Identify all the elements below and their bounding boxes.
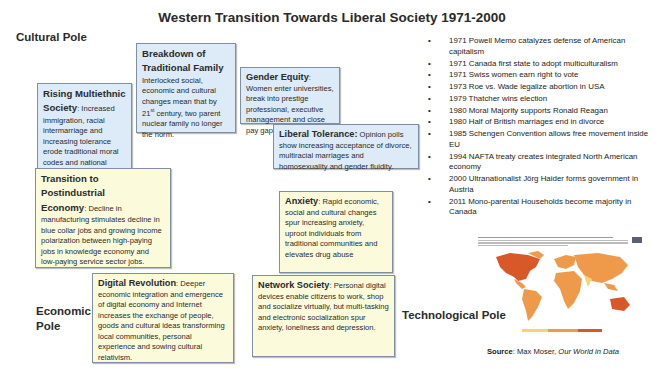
source-citation: Source: Max Moser, Our World in Data — [487, 347, 619, 356]
box-digital-revolution: Digital Revolution: Deeper economic inte… — [92, 273, 234, 363]
world-map-icon — [488, 249, 648, 335]
timeline-event: 1980 Moral Majority supports Ronald Reag… — [428, 106, 656, 117]
timeline-event: 2011 Mono-parental Households become maj… — [428, 197, 656, 219]
box-liberal-tolerance: Liberal Tolerance: Opinion polls show in… — [273, 124, 419, 169]
box-heading: Transition to Postindustrial — [41, 172, 165, 201]
box-body: : Deeper economic integration and emerge… — [98, 279, 225, 362]
timeline-event: 1973 Roe vs. Wade legalize abortion in U… — [428, 82, 656, 93]
box-heading: Gender Equity — [246, 72, 309, 82]
box-body: Interlocked social, economic and cultura… — [142, 76, 230, 140]
economic-pole-label: Economic Pole — [36, 304, 91, 334]
box-postindustrial-economy: Transition to Postindustrial Economy: De… — [35, 168, 171, 268]
timeline-event: 1994 NAFTA treaty creates integrated Nor… — [428, 152, 656, 174]
box-heading: Traditional Family — [142, 61, 230, 75]
cultural-pole-label: Cultural Pole — [16, 30, 87, 45]
timeline-event: 1971 Swiss women earn right to vote — [428, 70, 656, 81]
box-anxiety: Anxiety: Rapid economic, social and cult… — [279, 191, 393, 273]
economic-pole-line2: Pole — [36, 319, 91, 334]
timeline-event: 1980 Half of British marriages end in di… — [428, 117, 656, 128]
timeline-event: 1979 Thatcher wins election — [428, 94, 656, 105]
source-label: Source — [487, 347, 513, 356]
box-body: : Increased immigration, racial intermar… — [43, 104, 119, 177]
box-heading: Digital Revolution — [98, 278, 176, 288]
timeline-event: 1971 Canada first state to adopt multicu… — [428, 59, 656, 70]
box-rising-multiethnic-society: Rising Multiethnic Society: Increased im… — [37, 83, 132, 170]
box-heading: Economy — [41, 202, 84, 213]
box-network-society: Network Society: Personal digital device… — [252, 275, 395, 357]
box-heading: Breakdown of — [142, 47, 230, 61]
box-heading: Liberal Tolerance: — [279, 129, 357, 139]
box-heading: Network Society — [258, 280, 329, 290]
box-gender-equity: Gender Equity: Women enter universities,… — [240, 67, 340, 124]
page-title: Western Transition Towards Liberal Socie… — [0, 10, 664, 25]
owid-logo-icon — [632, 237, 642, 243]
map-caption — [478, 237, 628, 247]
timeline-events-list: 1971 Powell Memo catalyzes defense of Am… — [428, 36, 656, 219]
economic-pole-line1: Economic — [36, 304, 91, 319]
world-map-figure — [478, 237, 654, 345]
box-body: : Decline in manufacturing stimulates de… — [41, 204, 162, 266]
timeline-event: 1985 Schengen Convention allows free mov… — [428, 129, 656, 151]
box-heading: Anxiety — [285, 196, 318, 206]
timeline-event: 2000 Ultranationalist Jörg Haider forms … — [428, 174, 656, 196]
box-text: Society: Increased immigration, racial i… — [43, 101, 126, 178]
box-body: : Rapid economic, social and cultural ch… — [285, 197, 379, 259]
source-publication: Our World in Data — [558, 347, 619, 356]
box-breakdown-traditional-family: Breakdown of Traditional Family Interloc… — [136, 43, 236, 133]
box-heading: Society — [43, 102, 77, 113]
box-heading: Rising Multiethnic — [43, 87, 126, 101]
box-text: Economy: Decline in manufacturing stimul… — [41, 201, 165, 268]
source-text: : Max Moser, — [513, 347, 559, 356]
timeline-event: 1971 Powell Memo catalyzes defense of Am… — [428, 36, 656, 58]
